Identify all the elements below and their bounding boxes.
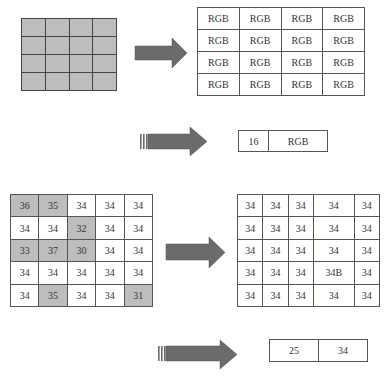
- arrow-right-striped-icon: [139, 126, 209, 157]
- output-cell: 34: [313, 239, 354, 261]
- output-cell: 34: [288, 284, 313, 306]
- rgb-cell: RGB: [281, 52, 323, 74]
- output-cell: 34: [313, 217, 354, 239]
- rgb-cell: RGB: [198, 8, 240, 30]
- rgb-cell: RGB: [239, 30, 281, 52]
- value-cell: 37: [39, 239, 67, 261]
- value-cell: 31: [124, 284, 152, 306]
- output-cell: 34: [354, 195, 379, 217]
- value-cell: 34: [67, 262, 95, 284]
- palette-result-2: 25 34: [269, 339, 368, 362]
- rgb-cell: RGB: [239, 74, 281, 96]
- arrow-right-icon: [165, 236, 227, 269]
- output-cell: 34: [263, 262, 288, 284]
- output-cell: 34: [313, 284, 354, 306]
- rgb-cell: RGB: [239, 8, 281, 30]
- rgb-grid: RGB RGB RGB RGB RGB RGB RGB RGB RGB RGB …: [197, 7, 365, 96]
- arrow-right-striped-icon: [157, 339, 239, 370]
- value-cell: 36: [11, 195, 39, 217]
- rgb-cell: RGB: [323, 52, 365, 74]
- value-cell: 34: [39, 217, 67, 239]
- output-cell: 34: [354, 239, 379, 261]
- value-cell: 34: [96, 262, 124, 284]
- rgb-cell: RGB: [281, 30, 323, 52]
- palette-count-cell: 16: [239, 131, 269, 152]
- arrow-right-icon: [134, 37, 189, 69]
- output-cell: 34B: [313, 262, 354, 284]
- output-cell: 34: [288, 239, 313, 261]
- output-cell: 34: [354, 262, 379, 284]
- value-cell: 34: [11, 262, 39, 284]
- rgb-cell: RGB: [198, 52, 240, 74]
- output-cell: 34: [238, 217, 263, 239]
- value-cell: 34: [96, 239, 124, 261]
- rgb-cell: RGB: [323, 74, 365, 96]
- rgb-cell: RGB: [281, 74, 323, 96]
- rgb-cell: RGB: [198, 30, 240, 52]
- rgb-cell: RGB: [281, 8, 323, 30]
- output-cell: 34: [263, 195, 288, 217]
- palette-count-cell: 25: [270, 340, 319, 362]
- output-cell: 34: [288, 217, 313, 239]
- value-cell: 34: [11, 284, 39, 306]
- output-cell: 34: [263, 217, 288, 239]
- palette-value-cell: 34: [319, 340, 368, 362]
- value-cell: 30: [67, 239, 95, 261]
- output-cell: 34: [263, 239, 288, 261]
- value-cell: 34: [96, 217, 124, 239]
- gray-pixel-grid: [21, 18, 117, 91]
- value-cell: 34: [39, 262, 67, 284]
- value-cell: 34: [67, 284, 95, 306]
- value-cell: 34: [96, 195, 124, 217]
- value-cell: 34: [11, 217, 39, 239]
- output-cell: 34: [354, 217, 379, 239]
- output-cell: 34: [354, 284, 379, 306]
- output-cell: 34: [288, 195, 313, 217]
- rgb-cell: RGB: [323, 30, 365, 52]
- value-cell: 34: [124, 239, 152, 261]
- value-cell: 35: [39, 195, 67, 217]
- output-cell: 34: [263, 284, 288, 306]
- value-cell: 34: [124, 217, 152, 239]
- value-grid: 36 35 34 34 34 34 34 32 34 34 33 37 30 3…: [10, 194, 153, 307]
- rgb-cell: RGB: [198, 74, 240, 96]
- output-grid: 34 34 34 34 34 34 34 34 34 34 34 34 34 3…: [237, 194, 380, 307]
- rgb-cell: RGB: [239, 52, 281, 74]
- rgb-cell: RGB: [323, 8, 365, 30]
- output-cell: 34: [288, 262, 313, 284]
- palette-result-1: 16 RGB: [238, 130, 328, 152]
- value-cell: 33: [11, 239, 39, 261]
- output-cell: 34: [238, 262, 263, 284]
- value-cell: 34: [124, 262, 152, 284]
- output-cell: 34: [238, 195, 263, 217]
- palette-value-cell: RGB: [269, 131, 328, 152]
- output-cell: 34: [313, 195, 354, 217]
- output-cell: 34: [238, 239, 263, 261]
- value-cell: 34: [67, 195, 95, 217]
- value-cell: 32: [67, 217, 95, 239]
- value-cell: 34: [96, 284, 124, 306]
- output-cell: 34: [238, 284, 263, 306]
- value-cell: 34: [124, 195, 152, 217]
- value-cell: 35: [39, 284, 67, 306]
